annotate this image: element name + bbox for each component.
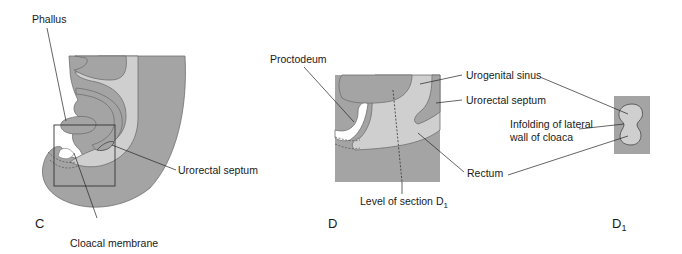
label-infolding-line2: wall of cloaca: [509, 131, 573, 143]
label-proctodeum: Proctodeum: [270, 53, 327, 65]
panel-label-c: C: [35, 216, 44, 231]
label-urorectal-septum-c: Urorectal septum: [178, 164, 258, 176]
label-cloacal-membrane: Cloacal membrane: [70, 237, 158, 249]
panel-label-d1: D1: [612, 216, 626, 233]
label-urorectal-septum-d: Urorectal septum: [466, 94, 546, 106]
label-phallus: Phallus: [32, 13, 66, 25]
leader-urogenital-sinus-d1: [540, 77, 628, 114]
panel-d-illustration: [304, 67, 464, 194]
cloaca-partition-diagram: Phallus Urorectal septum Cloacal membran…: [0, 0, 682, 254]
panel-c-illustration: [42, 28, 185, 218]
panel-label-d: D: [328, 216, 337, 231]
label-infolding-line1: Infolding of lateral: [510, 118, 593, 130]
label-urogenital-sinus: Urogenital sinus: [466, 69, 541, 81]
leader-phallus: [47, 28, 66, 121]
label-rectum: Rectum: [467, 167, 503, 179]
label-level-of-section: Level of section D1: [360, 195, 448, 210]
